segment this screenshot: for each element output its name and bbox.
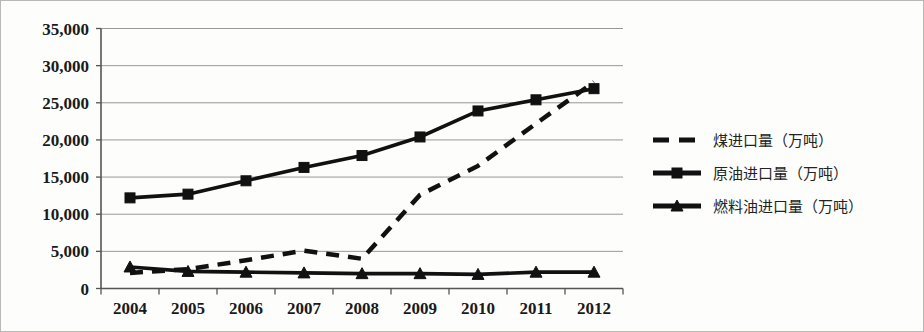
x-axis-tick-label: 2012 [577,299,611,318]
y-axis-tick-label: 35,000 [42,20,89,39]
y-axis-tick-label: 20,000 [42,131,89,150]
data-point-marker-square [531,95,541,105]
chart-screenshot: 05,00010,00015,00020,00025,00030,00035,0… [0,0,924,332]
x-axis-tick-label: 2004 [113,299,148,318]
y-axis-tick-label: 25,000 [42,94,89,113]
data-point-marker-square [125,193,135,203]
data-point-marker-square [357,151,367,161]
x-axis-tick-label: 2007 [287,299,322,318]
data-point-marker-square [415,132,425,142]
legend-item-label: 煤进口量（万吨） [713,132,833,150]
data-point-marker-square [589,84,599,94]
y-axis-tick-label: 15,000 [42,168,89,187]
legend-item-1[interactable]: 煤进口量（万吨） [653,132,833,150]
y-axis-tick-label: 30,000 [42,57,89,76]
legend-item-label: 燃料油进口量（万吨） [713,198,863,216]
data-series-layer [124,82,600,279]
x-axis-tick-label: 2006 [229,299,263,318]
series-2 [125,84,599,203]
data-point-marker-square [241,176,251,186]
x-axis-tick-label: 2009 [403,299,437,318]
y-axis-tick-label: 0 [81,280,90,299]
legend-marker-square [672,168,682,178]
x-axis [101,289,623,295]
data-point-marker-square [473,106,483,116]
x-axis-tick-label: 2011 [519,299,552,318]
x-axis-tick-label: 2010 [461,299,495,318]
legend-item-3[interactable]: 燃料油进口量（万吨） [653,198,863,216]
legend-item-2[interactable]: 原油进口量（万吨） [653,165,848,183]
chart-legend: 煤进口量（万吨）原油进口量（万吨）燃料油进口量（万吨） [653,132,863,216]
y-axis-tick-label: 10,000 [42,205,89,224]
data-point-marker-square [183,189,193,199]
x-axis-tick-labels: 200420052006200720082009201020112012 [113,299,611,318]
y-axis [96,29,101,289]
series-line [130,89,594,198]
data-point-marker-square [299,162,309,172]
legend-item-label: 原油进口量（万吨） [713,165,848,183]
y-axis-tick-labels: 05,00010,00015,00020,00025,00030,00035,0… [42,20,89,299]
y-axis-tick-label: 5,000 [51,242,89,261]
x-axis-tick-label: 2008 [345,299,379,318]
line-chart: 05,00010,00015,00020,00025,00030,00035,0… [1,1,924,332]
x-axis-tick-label: 2005 [171,299,205,318]
series-3 [124,261,600,279]
